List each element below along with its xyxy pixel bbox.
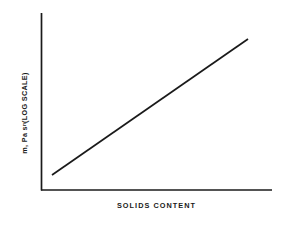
y-axis-label-exponent: n	[22, 123, 27, 126]
y-axis-label-prefix: m, Pa s	[21, 126, 28, 154]
y-axis-label: m, Pa sn (LOG SCALE)	[16, 0, 34, 226]
data-line-series-1	[52, 39, 248, 175]
figure-canvas: m, Pa sn (LOG SCALE) SOLIDS CONTENT	[0, 0, 283, 226]
plot-area	[0, 0, 283, 226]
x-axis-label: SOLIDS CONTENT	[41, 202, 272, 209]
y-axis-label-suffix: (LOG SCALE)	[21, 72, 28, 123]
